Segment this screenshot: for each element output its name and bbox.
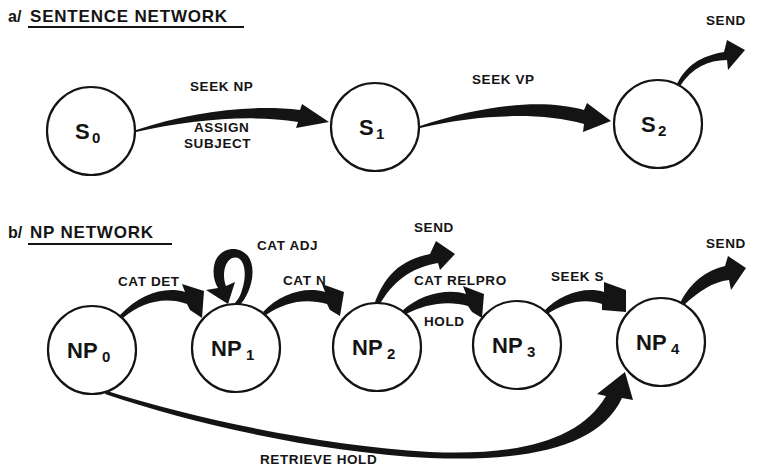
- node-label: NP: [211, 336, 242, 361]
- node-label: NP: [492, 333, 523, 358]
- arrow-shape: [543, 282, 626, 315]
- arrow-shape: [677, 40, 745, 86]
- edge-action-assign: ASSIGN: [194, 120, 249, 135]
- edge-label-seek-s: SEEK S: [551, 269, 604, 284]
- section-a-title: SENTENCE NETWORK: [30, 7, 228, 26]
- section-b-heading: b/ NP NETWORK: [8, 223, 172, 244]
- edge-action-hold: HOLD: [424, 314, 465, 329]
- arrow-shape: [263, 284, 344, 316]
- edge-np1-np2: CAT N: [263, 273, 344, 316]
- arrow-shape: [420, 103, 611, 132]
- edge-s2-send: SEND: [677, 13, 746, 86]
- node-subscript: 1: [246, 346, 254, 363]
- edge-label-cat-relpro: CAT RELPRO: [414, 273, 507, 288]
- node-subscript: 3: [527, 343, 535, 360]
- edge-label-cat-adj: CAT ADJ: [257, 238, 318, 253]
- node-np3: NP 3: [473, 301, 561, 389]
- node-np2: NP 2: [333, 303, 421, 391]
- section-a-prefix: a/: [8, 8, 22, 25]
- edge-np4-send: SEND: [680, 236, 746, 305]
- augmented-transition-network-diagram: a/ SENTENCE NETWORK SEEK NP ASSIGN SUBJE…: [0, 0, 767, 471]
- arrow-shape: [680, 256, 746, 305]
- edge-action-subject: SUBJECT: [184, 136, 251, 151]
- edge-label-cat-n: CAT N: [283, 273, 326, 288]
- edge-label-seek-np: SEEK NP: [190, 79, 253, 94]
- node-np0: NP 0: [48, 306, 136, 394]
- node-label: S: [75, 119, 90, 144]
- section-b-title: NP NETWORK: [30, 223, 154, 242]
- node-label: NP: [636, 330, 667, 355]
- node-subscript: 4: [671, 340, 680, 357]
- node-subscript: 0: [102, 348, 110, 365]
- node-subscript: 0: [92, 129, 100, 146]
- node-s0: S 0: [47, 87, 135, 175]
- edge-label-send: SEND: [706, 236, 746, 251]
- node-subscript: 2: [387, 345, 395, 362]
- node-np1: NP 1: [192, 304, 280, 392]
- edge-s1-s2: SEEK VP: [420, 72, 611, 132]
- edge-s0-s1: SEEK NP ASSIGN SUBJECT: [136, 79, 329, 151]
- node-s2: S 2: [614, 80, 702, 168]
- arrow-shape: [206, 249, 253, 307]
- edge-label-seek-vp: SEEK VP: [472, 72, 535, 87]
- node-np4: NP 4: [617, 298, 705, 386]
- edge-label-cat-det: CAT DET: [118, 274, 180, 289]
- edge-label-send: SEND: [414, 220, 454, 235]
- section-b-prefix: b/: [8, 224, 23, 241]
- edge-np0-np1: CAT DET: [118, 274, 204, 318]
- node-label: NP: [67, 338, 98, 363]
- edge-label-retrieve-hold: RETRIEVE HOLD: [260, 452, 377, 467]
- arrow-shape: [120, 284, 204, 318]
- node-label: S: [359, 115, 374, 140]
- section-a-heading: a/ SENTENCE NETWORK: [8, 7, 244, 27]
- edge-label-send: SEND: [706, 13, 746, 28]
- node-subscript: 1: [376, 125, 384, 142]
- node-s1: S 1: [331, 83, 419, 171]
- node-label: S: [641, 112, 656, 137]
- node-subscript: 2: [658, 122, 666, 139]
- node-label: NP: [352, 335, 383, 360]
- edge-np3-np4: SEEK S: [543, 269, 626, 315]
